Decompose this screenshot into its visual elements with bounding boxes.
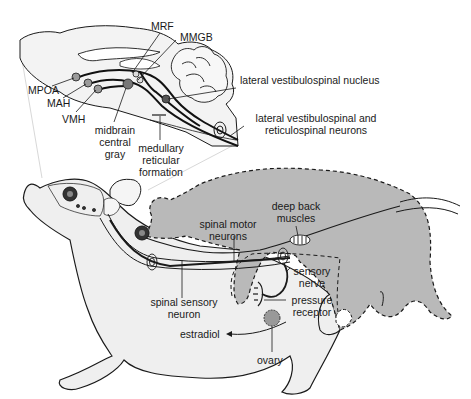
rat-body	[23, 168, 460, 394]
label-sensory-nerve-line1: sensory	[290, 265, 334, 277]
label-spinal-motor-line1: spinal motor	[190, 218, 266, 230]
label-pressure-line1: pressure	[286, 294, 338, 306]
label-lateral-vestibulospinal-nucleus: lateral vestibulospinal nucleus	[240, 74, 380, 86]
label-mpoa: MPOA	[28, 84, 59, 96]
label-lateral-vestibulospinal-reticulospinal-neurons: lateral vestibulospinal and reticulospin…	[246, 112, 386, 136]
mpoa-nucleus	[72, 73, 80, 81]
mah-nucleus	[84, 79, 92, 87]
label-spinal-sensory-neuron: spinal sensory neuron	[146, 296, 222, 320]
label-vmh: VMH	[62, 113, 85, 125]
label-spinal-sensory-line1: spinal sensory	[146, 296, 222, 308]
label-deep-back-muscles: deep back muscles	[266, 200, 326, 224]
label-spinal-motor-neurons: spinal motor neurons	[190, 218, 266, 242]
label-medullary-line2: reticular	[136, 154, 186, 166]
label-mmgb: MMGB	[180, 31, 213, 43]
label-medullary-line3: formation	[136, 166, 186, 178]
label-midbrain-line3: gray	[90, 148, 140, 160]
label-pressure-receptor: pressure receptor	[286, 294, 338, 318]
mrf-nucleus	[133, 71, 139, 77]
midbrain-central-gray-nucleus	[123, 79, 133, 89]
label-mrf: MRF	[151, 20, 174, 32]
label-lvrn-line1: lateral vestibulospinal and	[246, 112, 386, 124]
label-midbrain-line1: midbrain	[90, 124, 140, 136]
label-ovary: ovary	[257, 354, 283, 366]
muscle-icon	[290, 235, 310, 245]
label-lvrn-line2: reticulospinal neurons	[246, 124, 386, 136]
label-spinal-motor-line2: neurons	[190, 230, 266, 242]
label-midbrain-line2: central	[90, 136, 140, 148]
label-mah: MAH	[47, 97, 70, 109]
label-sensory-nerve: sensory nerve	[290, 265, 334, 289]
male-eye-icon	[135, 226, 149, 240]
eye-icon	[63, 187, 77, 201]
label-sensory-nerve-line2: nerve	[290, 277, 334, 289]
label-midbrain-central-gray: midbrain central gray	[90, 124, 140, 160]
vmh-nucleus	[94, 85, 102, 93]
diagram-artwork	[0, 0, 471, 399]
label-deep-back-line1: deep back	[266, 200, 326, 212]
label-medullary-line1: medullary	[136, 142, 186, 154]
label-estradiol: estradiol	[180, 328, 220, 340]
label-pressure-line2: receptor	[286, 306, 338, 318]
label-spinal-sensory-line2: neuron	[146, 308, 222, 320]
label-medullary-reticular-formation: medullary reticular formation	[136, 142, 186, 178]
ovary-icon	[264, 310, 280, 326]
lordosis-circuit-diagram: MRF MMGB MPOA MAH VMH midbrain central g…	[0, 0, 471, 399]
label-deep-back-line2: muscles	[266, 212, 326, 224]
